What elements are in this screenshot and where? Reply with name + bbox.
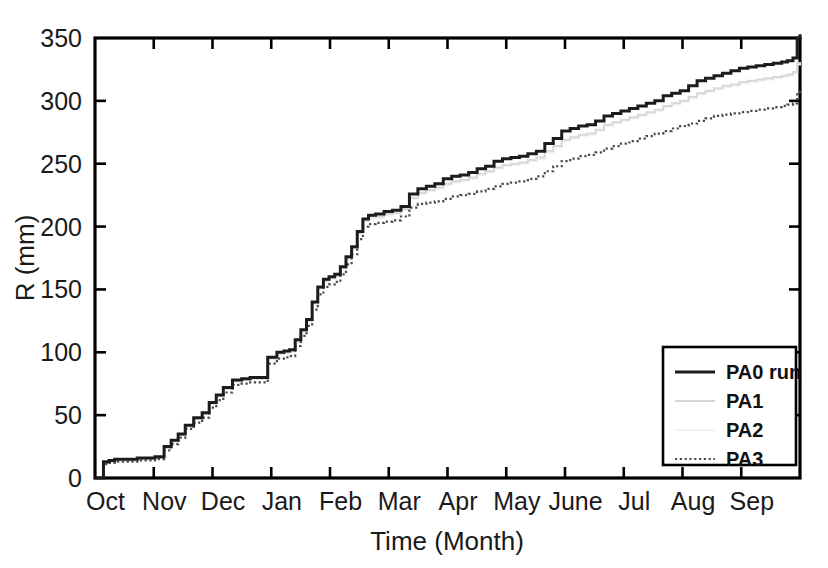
chart-canvas: 050100150200250300350 OctNovDecJanFebMar… (0, 0, 828, 568)
y-tick-label-250: 250 (40, 150, 82, 178)
y-axis-tick-labels: 050100150200250300350 (40, 24, 82, 492)
x-tick-label-dec: Dec (201, 487, 245, 515)
y-tick-label-50: 50 (54, 401, 82, 429)
y-tick-label-100: 100 (40, 338, 82, 366)
x-tick-label-aug: Aug (671, 487, 715, 515)
legend: PA0 runPA1PA2PA3 (663, 347, 801, 470)
y-tick-label-0: 0 (68, 464, 82, 492)
y-tick-label-300: 300 (40, 87, 82, 115)
rainfall-chart-figure: 050100150200250300350 OctNovDecJanFebMar… (0, 0, 828, 568)
y-tick-label-200: 200 (40, 213, 82, 241)
legend-label-pa1: PA1 (726, 390, 763, 412)
legend-label-pa3: PA3 (726, 448, 763, 470)
y-tick-label-350: 350 (40, 24, 82, 52)
x-tick-label-apr: Apr (439, 487, 478, 515)
x-tick-label-oct: Oct (86, 487, 125, 515)
x-tick-label-mar: Mar (378, 487, 421, 515)
y-axis-title: R (mm) (10, 215, 40, 302)
x-axis-title: Time (Month) (370, 526, 524, 556)
x-tick-label-jan: Jan (262, 487, 302, 515)
x-tick-label-sep: Sep (730, 487, 774, 515)
x-tick-label-feb: Feb (319, 487, 362, 515)
x-tick-label-nov: Nov (142, 487, 187, 515)
legend-label-pa0-run: PA0 run (726, 361, 801, 383)
x-axis-tick-labels: OctNovDecJanFebMarAprMayJuneJulAugSep (86, 487, 774, 515)
legend-label-pa2: PA2 (726, 419, 763, 441)
x-tick-label-june: June (548, 487, 602, 515)
x-tick-label-may: May (493, 487, 541, 515)
y-tick-label-150: 150 (40, 275, 82, 303)
x-tick-label-jul: Jul (618, 487, 650, 515)
